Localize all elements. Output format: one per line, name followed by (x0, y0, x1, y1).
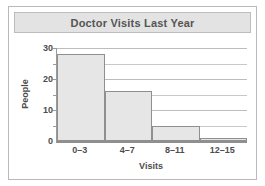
plot-wrapper: People 0102030 0–34–78–1112–15 Visits (9, 37, 258, 179)
y-axis-label: People (20, 64, 30, 124)
x-tick-label: 4–7 (120, 145, 135, 155)
plot-area (56, 48, 247, 143)
bar (105, 91, 153, 141)
y-axis-tick-labels: 0102030 (31, 37, 53, 147)
y-tick-label: 20 (31, 74, 53, 84)
x-tick-label: 0–3 (72, 145, 87, 155)
bar (57, 54, 105, 141)
chart-title-banner: Doctor Visits Last Year (14, 12, 251, 33)
x-tick-label: 8–11 (165, 145, 185, 155)
bar (200, 138, 248, 141)
chart-figure: Doctor Visits Last Year People 0102030 0… (8, 6, 257, 180)
x-axis-tick-labels: 0–34–78–1112–15 (56, 145, 246, 159)
bar-series (57, 48, 247, 141)
y-tick-label: 10 (31, 105, 53, 115)
plot-grid-and-bars (57, 48, 247, 141)
y-tick-label: 0 (31, 136, 53, 146)
chart-title: Doctor Visits Last Year (70, 17, 194, 29)
x-tick-label: 12–15 (210, 145, 235, 155)
x-axis-label: Visits (56, 161, 246, 171)
y-tick-label: 30 (31, 43, 53, 53)
bar (152, 126, 200, 142)
